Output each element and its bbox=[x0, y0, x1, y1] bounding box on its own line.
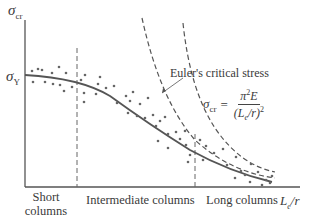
x-axis-label: Le/r bbox=[280, 193, 299, 211]
euler-formula: σcr = π2E (Le/r)2 bbox=[203, 88, 266, 122]
region-label-short-columns: Shortcolumns bbox=[24, 190, 68, 218]
region-label-intermediate-columns: Intermediate columns bbox=[86, 193, 195, 207]
formula-numerator: π2E bbox=[238, 88, 259, 105]
y-axis-label: σcr bbox=[8, 2, 22, 21]
region-label-long-columns: Long columns bbox=[206, 193, 278, 207]
yield-stress-label: σY bbox=[6, 68, 20, 87]
column-buckling-diagram: σcr σY Euler's critical stress σcr = π2E… bbox=[0, 0, 312, 220]
formula-denominator: (Le/r)2 bbox=[232, 105, 266, 122]
formula-lhs: σcr bbox=[203, 96, 216, 114]
euler-annotation: Euler's critical stress bbox=[170, 66, 269, 81]
formula-fraction: π2E (Le/r)2 bbox=[232, 88, 266, 122]
formula-equals: = bbox=[220, 97, 227, 113]
